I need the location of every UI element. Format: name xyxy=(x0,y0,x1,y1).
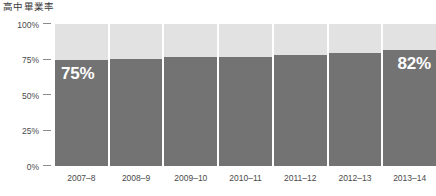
bar-value-label: 82% xyxy=(398,54,431,73)
y-axis-tick-mark xyxy=(43,59,51,60)
plot-area: 75%82% xyxy=(55,24,436,166)
bar-fill xyxy=(164,57,217,166)
y-axis-tick-mark xyxy=(43,94,51,95)
x-axis-tick-label: 2009–10 xyxy=(164,166,217,196)
bar-column[interactable]: 82% xyxy=(383,24,436,166)
bar-fill xyxy=(274,55,327,166)
bar-column[interactable] xyxy=(110,24,163,166)
y-axis-tick-label: 50% xyxy=(22,90,39,102)
x-axis-tick-label: 2012–13 xyxy=(329,166,382,196)
x-axis-tick-label: 2008–9 xyxy=(110,166,163,196)
y-axis-tick: 100% xyxy=(17,18,55,30)
bar-fill: 75% xyxy=(55,60,108,167)
y-axis-tick-label: 25% xyxy=(22,125,39,137)
y-axis-tick-label: 0% xyxy=(27,161,39,173)
bar-fill xyxy=(110,59,163,166)
bar-column[interactable] xyxy=(329,24,382,166)
y-axis-tick: 50% xyxy=(22,89,55,101)
y-axis-tick: 75% xyxy=(22,54,55,66)
bar-series: 75%82% xyxy=(55,24,436,166)
chart-title: 高中畢業率 xyxy=(3,1,55,13)
y-axis-tick-label: 100% xyxy=(17,19,39,31)
y-axis: 100%75%50%25%0% xyxy=(0,24,55,166)
bar-column[interactable]: 75% xyxy=(55,24,108,166)
bar-value-label: 75% xyxy=(61,64,94,83)
bar-column[interactable] xyxy=(274,24,327,166)
bar-fill xyxy=(329,53,382,166)
y-axis-tick-label: 75% xyxy=(22,54,39,66)
bar-column[interactable] xyxy=(164,24,217,166)
bar-fill xyxy=(219,57,272,166)
y-axis-tick-mark xyxy=(43,23,51,24)
y-axis-tick-mark xyxy=(43,130,51,131)
x-axis-tick-label: 2010–11 xyxy=(219,166,272,196)
y-axis-tick: 25% xyxy=(22,125,55,137)
y-axis-tick: 0% xyxy=(27,160,55,172)
chart-container: 高中畢業率 100%75%50%25%0% 75%82% 2007–82008–… xyxy=(0,0,436,196)
bar-fill: 82% xyxy=(383,50,436,166)
x-axis-tick-label: 2011–12 xyxy=(274,166,327,196)
y-axis-tick-mark xyxy=(43,165,51,166)
bar-column[interactable] xyxy=(219,24,272,166)
x-axis-tick-label: 2007–8 xyxy=(55,166,108,196)
x-axis-tick-label: 2013–14 xyxy=(383,166,436,196)
x-axis: 2007–82008–92009–102010–112011–122012–13… xyxy=(55,166,436,196)
